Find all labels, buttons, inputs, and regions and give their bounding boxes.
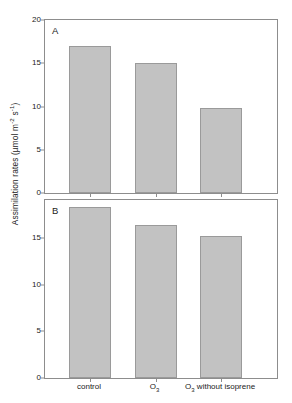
bar-a-3 xyxy=(200,108,242,193)
panel-b-ytick-mark xyxy=(41,378,45,379)
panel-a-ytick-mark xyxy=(41,106,45,107)
panel-a-xtick-mark-3 xyxy=(221,193,222,197)
panel-b-ytick-label: 10 xyxy=(32,281,41,289)
bar-b-1 xyxy=(69,207,111,378)
x-category-label-2: O3 xyxy=(150,383,160,393)
y-axis-title-sup-1: -2 xyxy=(8,118,15,124)
panel-a-ytick-mark xyxy=(41,149,45,150)
panel-a-xtick-mark-2 xyxy=(156,193,157,197)
y-axis-title-before: Assimilation rates (µmol m xyxy=(10,124,20,225)
panel-b-ytick-mark xyxy=(41,237,45,238)
panel-a-ytick-mark xyxy=(41,63,45,64)
x-category-label-1: control xyxy=(77,383,101,391)
panel-b-plot-area: 051015 xyxy=(45,200,277,378)
x-axis-category-labels: controlO3O3 without isoprene xyxy=(44,383,278,397)
y-axis-title-after: ) xyxy=(10,103,20,106)
panel-a: A 05101520 xyxy=(44,19,278,194)
panel-a-ytick-mark xyxy=(41,20,45,21)
panel-b-ytick-mark xyxy=(41,284,45,285)
panel-b-ytick-label: 15 xyxy=(32,234,41,242)
bar-a-2 xyxy=(135,63,177,193)
panel-b: B 051015 xyxy=(44,199,278,379)
panel-a-ytick-label: 20 xyxy=(32,16,41,24)
bar-b-3 xyxy=(200,236,242,378)
x-category-label-subscript: 3 xyxy=(156,387,159,393)
figure-assimilation-rates: Assimilation rates (µmol m-2 s-1) A 0510… xyxy=(0,0,292,403)
panel-a-ytick-label: 10 xyxy=(32,103,41,111)
y-axis-title-sup-2: -1 xyxy=(8,105,15,111)
clipped-caption-strip xyxy=(0,396,292,403)
x-category-label-text: control xyxy=(77,382,101,391)
panel-a-ytick-label: 15 xyxy=(32,59,41,67)
panel-a-xtick-mark-1 xyxy=(90,193,91,197)
bar-a-1 xyxy=(69,46,111,193)
y-axis-title: Assimilation rates (µmol m-2 s-1) xyxy=(8,64,20,264)
panel-b-ytick-mark xyxy=(41,331,45,332)
x-category-label-suffix: without isoprene xyxy=(195,382,255,391)
bar-b-2 xyxy=(135,225,177,378)
panel-a-plot-area: 05101520 xyxy=(45,20,277,193)
x-category-label-3: O3 without isoprene xyxy=(185,383,255,393)
y-axis-title-middle: s xyxy=(10,111,20,118)
panel-a-ytick-mark xyxy=(41,193,45,194)
